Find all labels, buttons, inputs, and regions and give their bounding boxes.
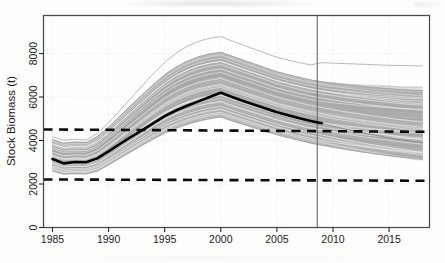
x-tick-label: 1985 — [41, 233, 65, 245]
y-axis-title: Stock Biomass (t) — [5, 76, 17, 166]
y-tick-label: 2000 — [27, 172, 39, 196]
y-axis-tick-labels: 02000400060008000 — [27, 42, 39, 231]
y-tick-label: 8000 — [27, 42, 39, 66]
x-tick-label: 2005 — [265, 233, 289, 245]
x-tick-label: 2000 — [209, 233, 233, 245]
y-axis-ticks — [39, 54, 44, 228]
x-tick-label: 1995 — [153, 233, 177, 245]
x-axis-ticks — [52, 228, 389, 233]
chart-figure: 02000400060008000 1985199019952000200520… — [0, 0, 445, 263]
x-tick-label: 1990 — [97, 233, 121, 245]
y-tick-label: 4000 — [27, 129, 39, 153]
stock-biomass-plot: 02000400060008000 1985199019952000200520… — [0, 0, 445, 263]
y-tick-label: 6000 — [27, 85, 39, 109]
x-tick-label: 2015 — [377, 233, 401, 245]
x-tick-label: 2010 — [321, 233, 345, 245]
x-axis-tick-labels: 1985199019952000200520102015 — [41, 233, 401, 245]
y-tick-label: 0 — [27, 224, 39, 230]
